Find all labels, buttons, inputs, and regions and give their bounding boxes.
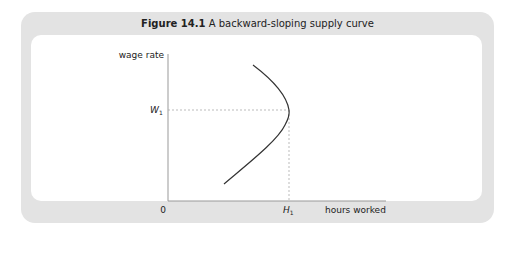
h1-label: H1 — [283, 205, 294, 216]
w1-label: W1 — [150, 105, 163, 116]
x-axis-label: hours worked — [325, 205, 386, 215]
origin-label: 0 — [160, 205, 166, 215]
y-axis-label: wage rate — [119, 50, 165, 60]
supply-curve — [224, 65, 289, 184]
chart: wage rate 0 hours worked W1 H1 — [0, 0, 510, 256]
